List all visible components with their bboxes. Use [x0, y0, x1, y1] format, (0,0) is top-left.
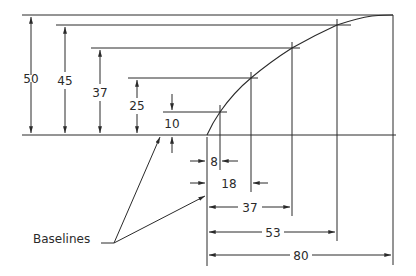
dim-label-10: 10 — [164, 117, 179, 131]
baselines-label: Baselines — [33, 232, 90, 246]
dim-label-18: 18 — [221, 177, 236, 191]
dim-label-8: 8 — [210, 155, 218, 169]
callout-leader-to-vertical-baseline — [114, 196, 205, 243]
dim-label-50: 50 — [23, 72, 38, 86]
dim-label-53: 53 — [265, 226, 280, 240]
dim-label-45: 45 — [57, 74, 72, 88]
profile-curve — [207, 15, 393, 135]
vertical-extension-lines — [207, 15, 393, 266]
vertical-dimensions: 50 45 37 25 10 — [23, 17, 179, 153]
horizontal-extension-lines — [22, 15, 396, 135]
dim-label-80: 80 — [293, 249, 308, 263]
callout-leader-to-horizontal-baseline — [114, 137, 160, 243]
dim-label-37v: 37 — [92, 86, 107, 100]
baseline-dimension-drawing: 50 45 37 25 10 8 18 37 53 80 Baselines — [0, 0, 416, 276]
baselines-callout: Baselines — [33, 137, 205, 246]
dim-label-37h: 37 — [242, 201, 257, 215]
horizontal-dimensions: 8 18 37 53 80 — [190, 155, 391, 263]
drawing-canvas: 50 45 37 25 10 8 18 37 53 80 Baselines — [0, 0, 416, 276]
dim-label-25: 25 — [129, 99, 144, 113]
